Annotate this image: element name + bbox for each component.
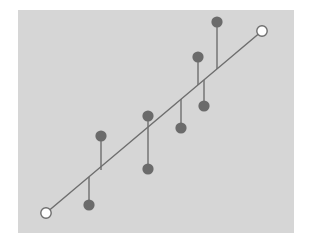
- reference-line: [46, 31, 262, 213]
- data-points-group: [83, 16, 222, 210]
- figure-container: [0, 0, 312, 243]
- data-point[interactable]: [192, 51, 203, 62]
- data-point[interactable]: [175, 122, 186, 133]
- data-point[interactable]: [83, 199, 94, 210]
- endpoint-marker[interactable]: [41, 208, 51, 218]
- data-point[interactable]: [198, 100, 209, 111]
- data-point[interactable]: [95, 130, 106, 141]
- data-point[interactable]: [142, 110, 153, 121]
- reference-line-group: [46, 31, 262, 213]
- endpoint-marker[interactable]: [257, 26, 267, 36]
- data-point[interactable]: [211, 16, 222, 27]
- data-point[interactable]: [142, 163, 153, 174]
- plot-svg: [0, 0, 312, 243]
